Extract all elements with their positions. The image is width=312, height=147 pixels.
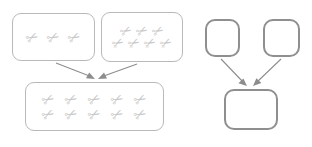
item-row: ✂ ✂ ✂ ✂ — [110, 36, 174, 50]
abstract-addend-box-b[interactable] — [263, 19, 300, 57]
scissors-icon: ✂ — [157, 34, 174, 52]
abstract-addend-a-content — [207, 21, 238, 55]
arrow-from-addend-a — [56, 63, 95, 79]
addend-a-items: ✂ ✂ ✂ — [13, 14, 94, 60]
scissors-icon: ✂ — [44, 27, 63, 46]
sum-items: ✂ ✂ ✂ ✂ ✂ ✂ ✂ ✂ ✂ ✂ — [26, 83, 163, 130]
item-row: ✂ ✂ ✂ ✂ ✂ — [37, 107, 152, 122]
scissors-icon: ✂ — [23, 27, 42, 46]
abstract-arrow-from-a — [221, 59, 247, 86]
abstract-sum-box[interactable] — [224, 89, 278, 130]
scissors-icon: ✂ — [65, 27, 84, 46]
item-row: ✂ ✂ ✂ — [22, 30, 85, 45]
addend-box-b[interactable]: ✂ ✂ ✂ ✂ ✂ ✂ ✂ — [101, 12, 183, 62]
abstract-sum-content — [226, 91, 276, 128]
scissors-icon: ✂ — [62, 104, 81, 123]
abstract-addend-b-content — [265, 21, 298, 55]
sum-box[interactable]: ✂ ✂ ✂ ✂ ✂ ✂ ✂ ✂ ✂ ✂ — [25, 82, 164, 131]
scissors-icon: ✂ — [131, 104, 150, 123]
diagram-canvas: ✂ ✂ ✂ ✂ ✂ ✂ ✂ ✂ ✂ ✂ ✂ ✂ ✂ — [0, 0, 312, 147]
scissors-icon: ✂ — [108, 104, 127, 123]
item-row: ✂ ✂ ✂ — [118, 24, 166, 38]
scissors-icon: ✂ — [85, 104, 104, 123]
arrow-from-addend-b — [98, 64, 137, 79]
abstract-addend-box-a[interactable] — [205, 19, 240, 57]
addend-box-a[interactable]: ✂ ✂ ✂ — [12, 13, 95, 61]
scissors-icon: ✂ — [39, 104, 58, 123]
addend-b-items: ✂ ✂ ✂ ✂ ✂ ✂ ✂ — [102, 13, 182, 61]
abstract-arrow-from-b — [253, 59, 281, 86]
